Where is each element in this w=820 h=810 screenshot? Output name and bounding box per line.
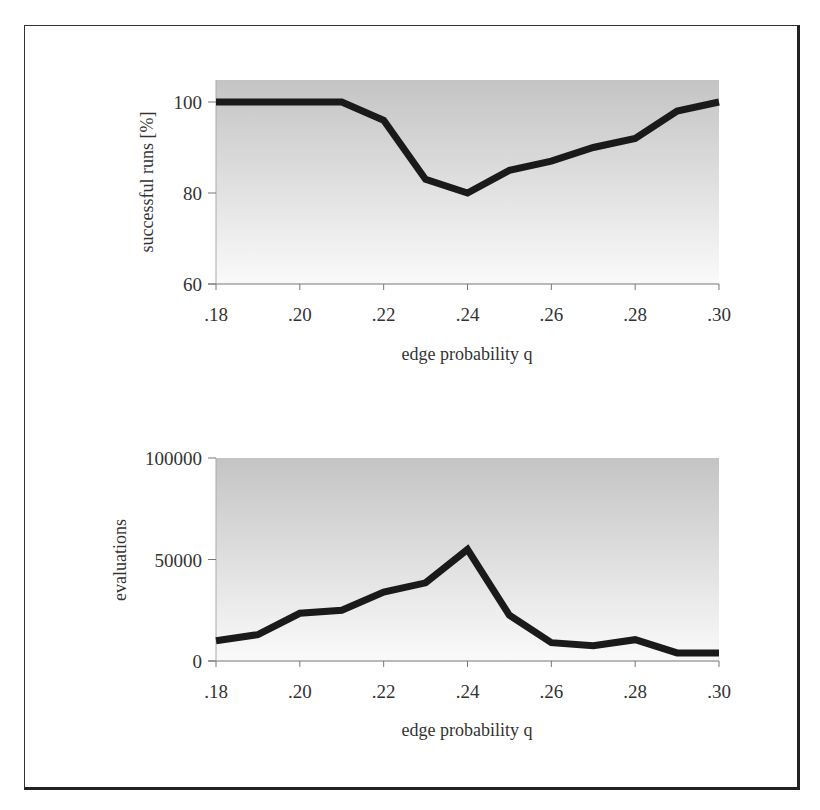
figure-canvas: 6080100 .18.20.22.24.26.28.30 edge proba… <box>0 0 820 810</box>
chart-success-rate: 6080100 .18.20.22.24.26.28.30 edge proba… <box>137 80 731 364</box>
x-tick-label: .20 <box>288 681 312 702</box>
y-axis-title: successful runs [%] <box>137 112 157 253</box>
x-tick-label: .28 <box>623 681 647 702</box>
x-tick-label: .22 <box>372 681 396 702</box>
y-axis-title: evaluations <box>110 519 130 601</box>
y-tick-label: 100000 <box>145 448 202 469</box>
y-tick-label: 60 <box>183 274 202 295</box>
chart-evaluations: 050000100000 .18.20.22.24.26.28.30 edge … <box>110 448 731 740</box>
y-tick-label: 100 <box>174 92 203 113</box>
x-tick-label: .30 <box>707 681 731 702</box>
x-tick-label: .22 <box>372 304 396 325</box>
x-tick-label: .26 <box>539 304 563 325</box>
x-tick-label: .30 <box>707 304 731 325</box>
plot-area <box>216 458 719 661</box>
y-tick-label: 0 <box>193 651 203 672</box>
x-tick-label: .24 <box>456 304 480 325</box>
x-tick-labels: .18.20.22.24.26.28.30 <box>204 681 731 702</box>
x-axis-title: edge probability q <box>402 344 533 364</box>
x-tick-label: .18 <box>204 681 228 702</box>
x-tick-label: .26 <box>539 681 563 702</box>
x-axis-title: edge probability q <box>402 720 533 740</box>
x-tick-labels: .18.20.22.24.26.28.30 <box>204 304 731 325</box>
y-tick-labels: 6080100 <box>174 92 203 295</box>
y-tick-label: 80 <box>183 183 202 204</box>
y-tick-labels: 050000100000 <box>145 448 202 672</box>
x-tick-label: .24 <box>456 681 480 702</box>
plot-area <box>216 80 719 284</box>
x-tick-label: .28 <box>623 304 647 325</box>
x-tick-label: .18 <box>204 304 228 325</box>
y-tick-label: 50000 <box>155 550 203 571</box>
x-tick-label: .20 <box>288 304 312 325</box>
